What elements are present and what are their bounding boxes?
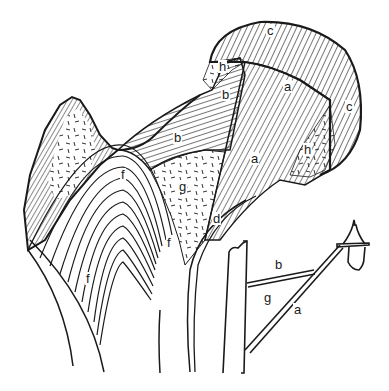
label-a-middle: a [250, 152, 259, 165]
label-f-right: f [166, 236, 172, 249]
label-f-top: f [120, 168, 126, 181]
label-lamp-b: b [274, 258, 283, 271]
label-g-middle: g [178, 180, 187, 193]
label-f-left: f [85, 272, 91, 285]
femur-diagram: c h a b c b h a f g d f f b g a [0, 0, 389, 391]
femur-illustration [0, 0, 389, 391]
label-b-left: b [173, 131, 182, 144]
lamp-post [223, 220, 369, 373]
label-b-upper: b [221, 88, 230, 101]
label-h-upper: h [218, 60, 227, 73]
label-d-neck: d [212, 212, 221, 225]
label-a-upper: a [283, 80, 292, 93]
label-lamp-g: g [263, 291, 272, 304]
label-lamp-a: a [293, 303, 302, 316]
label-c-right: c [345, 100, 354, 113]
label-c-top: c [266, 24, 275, 37]
label-h-right: h [303, 143, 312, 156]
